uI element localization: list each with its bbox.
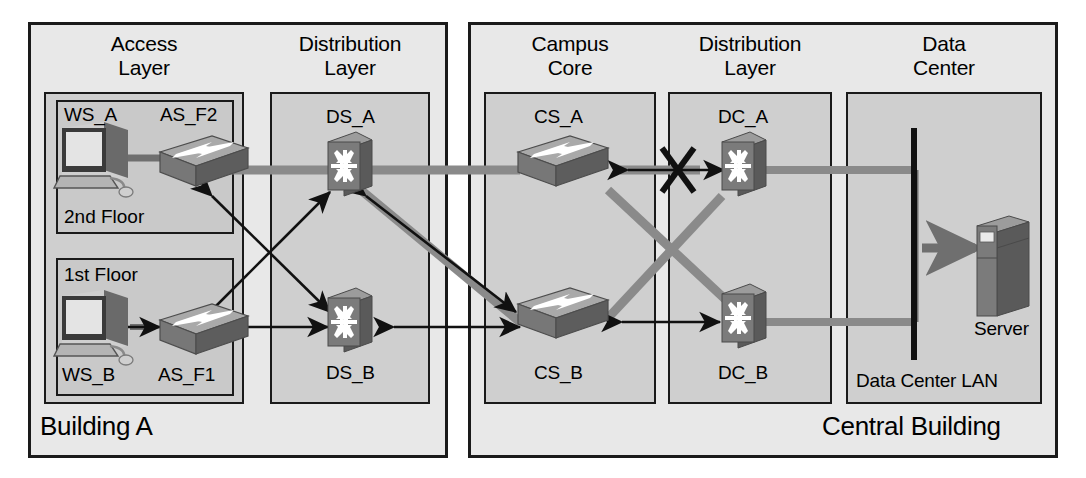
zone-title-access-layer: Access Layer (44, 32, 244, 80)
zone-title-distribution-layer-a: Distribution Layer (262, 32, 438, 80)
zone-title-data-center: Data Center (846, 32, 1042, 80)
building-label-building-a: Building A (40, 412, 153, 440)
node-label-as-f1: AS_F1 (158, 364, 215, 385)
node-label-ws-b: WS_B (62, 364, 115, 385)
zone-data-center (846, 92, 1042, 404)
zone-campus-core (484, 92, 656, 404)
zone-distribution-layer-b (668, 92, 832, 404)
node-label-cs-a: CS_A (534, 106, 583, 127)
node-label-ws-a: WS_A (64, 104, 117, 125)
node-label-data-center-lan: Data Center LAN (856, 370, 998, 391)
floor-label-first-floor: 1st Floor (64, 264, 138, 285)
node-label-server: Server (974, 318, 1029, 339)
network-topology-diagram: Access Layer Distribution Layer Campus C… (0, 0, 1086, 478)
zone-title-distribution-layer-b: Distribution Layer (662, 32, 838, 80)
zone-distribution-layer-a (270, 92, 430, 404)
node-label-as-f2: AS_F2 (160, 104, 217, 125)
node-label-dc-b: DC_B (718, 362, 768, 383)
zone-title-campus-core: Campus Core (484, 32, 656, 80)
node-label-ds-a: DS_A (326, 106, 375, 127)
floor-label-second-floor: 2nd Floor (64, 206, 144, 227)
building-label-central-building: Central Building (822, 412, 1001, 440)
node-label-dc-a: DC_A (718, 106, 768, 127)
node-label-ds-b: DS_B (326, 362, 375, 383)
node-label-cs-b: CS_B (534, 362, 583, 383)
